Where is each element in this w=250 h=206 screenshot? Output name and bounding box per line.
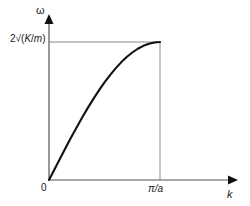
origin-label: 0 [41, 183, 47, 193]
dispersion-relation-figure: ω k 2√(K/m) π/a 0 [0, 0, 250, 206]
y-axis-max-tick-label: 2√(K/m) [10, 34, 46, 44]
ytick-denominator: m [34, 33, 42, 44]
arrow-right-icon [228, 176, 238, 185]
ytick-suffix: ) [42, 33, 45, 44]
arrow-up-icon [45, 14, 54, 24]
x-axis-max-tick-label: π/a [148, 184, 163, 194]
x-axis-title: k [227, 189, 233, 200]
plot-canvas [0, 0, 250, 206]
y-axis-title: ω [36, 5, 45, 16]
ytick-prefix: 2√( [10, 33, 24, 44]
dispersion-curve [49, 42, 160, 180]
